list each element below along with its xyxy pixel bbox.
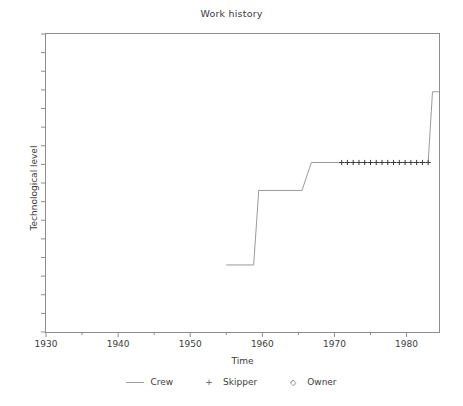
skipper-marker: [414, 160, 419, 165]
plot-area: [45, 33, 440, 333]
skipper-marker: [426, 160, 431, 165]
x-tick-label: 1950: [170, 339, 210, 349]
skipper-marker: [368, 160, 373, 165]
skipper-marker: [420, 160, 425, 165]
chart-title: Work history: [0, 8, 463, 19]
diamond-legend-marker-icon: ◇: [285, 378, 301, 387]
skipper-marker: [339, 160, 344, 165]
skipper-marker: [385, 160, 390, 165]
legend-label: Owner: [307, 377, 336, 387]
x-tick-label: 1980: [387, 339, 427, 349]
chart-figure: Work history 193019401950196019701980 Ti…: [0, 0, 463, 406]
skipper-marker: [403, 160, 408, 165]
x-tick-label: 1970: [314, 339, 354, 349]
x-axis-label: Time: [45, 356, 440, 366]
legend-entry-crew: Crew: [126, 377, 173, 387]
x-tick-label: 1930: [26, 339, 66, 349]
chart-legend: Crew+Skipper◇Owner: [0, 377, 463, 387]
skipper-marker: [351, 160, 356, 165]
x-tick-label: 1940: [98, 339, 138, 349]
skipper-marker: [397, 160, 402, 165]
skipper-marker: [379, 160, 384, 165]
legend-label: Crew: [150, 377, 173, 387]
legend-entry-skipper: +Skipper: [201, 377, 257, 387]
skipper-marker: [391, 160, 396, 165]
plus-legend-marker-icon: +: [201, 378, 217, 387]
plot-canvas: [46, 34, 439, 332]
x-tick-label: 1960: [242, 339, 282, 349]
legend-entry-owner: ◇Owner: [285, 377, 336, 387]
skipper-marker: [345, 160, 350, 165]
skipper-marker: [374, 160, 379, 165]
legend-label: Skipper: [223, 377, 257, 387]
skipper-marker: [362, 160, 367, 165]
skipper-marker: [356, 160, 361, 165]
crew-step-line: [226, 92, 439, 265]
line-legend-marker-icon: [126, 382, 144, 383]
y-axis-label: Technological level: [29, 108, 39, 268]
skipper-marker: [408, 160, 413, 165]
